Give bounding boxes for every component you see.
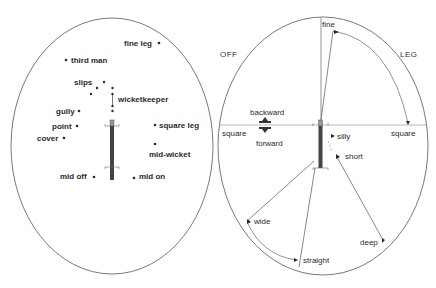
arrowhead — [382, 238, 385, 243]
fielder-gully: gully — [56, 107, 80, 116]
backward-arrow-icon — [262, 117, 268, 121]
term-short: short — [345, 152, 364, 161]
left-field: fine leg third man slips wicketkeeper gu… — [11, 18, 213, 274]
term-wide: wide — [253, 217, 271, 226]
forward-arrow-icon — [262, 129, 268, 133]
fielder-dot — [154, 143, 157, 146]
silly-short-dashed — [328, 141, 332, 152]
fielder-label: gully — [56, 107, 75, 116]
right-bat-stumps — [319, 120, 323, 126]
arrowhead — [294, 258, 298, 262]
term-straight: straight — [303, 256, 330, 265]
right-field: OFF LEG fine square square backward forw… — [218, 17, 428, 275]
left-bat-stumps — [110, 120, 114, 126]
up-down-arrow-body — [259, 127, 271, 129]
fielder-label: wicketkeeper — [117, 95, 168, 104]
fielder-label: mid-wicket — [149, 150, 191, 159]
fielder-fine-leg: fine leg — [124, 39, 160, 48]
fielder-dot — [65, 59, 68, 62]
fine-to-square-arrow — [321, 30, 410, 125]
left-pitch-strip — [110, 126, 114, 180]
fielder-third-man: third man — [65, 56, 108, 65]
fielder-label: square leg — [159, 121, 199, 130]
term-forward: forward — [256, 139, 283, 148]
fielder-square-leg: square leg — [154, 121, 199, 130]
fielder-label: mid off — [60, 172, 87, 181]
fielder-label: point — [52, 122, 72, 131]
fielder-dot — [154, 124, 157, 127]
right-pitch — [313, 120, 328, 170]
fielder-point: point — [52, 122, 78, 131]
term-square-leg: square — [391, 129, 416, 138]
fielder-label: cover — [37, 134, 58, 143]
cricket-field-diagram: fine leg third man slips wicketkeeper gu… — [0, 0, 436, 288]
left-pitch — [105, 120, 119, 180]
fielder-mid-wicket: mid-wicket — [149, 143, 191, 159]
off-side-label: OFF — [220, 50, 238, 59]
fielder-dot — [158, 42, 161, 45]
fielder-dot — [133, 177, 136, 180]
fielder-dot — [63, 137, 66, 140]
right-pitch-strip — [319, 126, 323, 168]
right-boundary — [218, 17, 428, 275]
fielder-wicketkeeper: wicketkeeper — [117, 95, 168, 104]
term-silly: silly — [337, 132, 350, 141]
wicketkeeper-marker — [111, 87, 113, 112]
fielder-mid-off: mid off — [60, 172, 95, 181]
fielder-dot — [93, 176, 96, 179]
fielder-dot — [78, 110, 81, 113]
deep-arrow — [336, 154, 385, 243]
up-down-arrow-body — [259, 121, 271, 123]
fielder-mid-on: mid on — [133, 172, 166, 181]
fielder-label: fine leg — [124, 39, 152, 48]
fielder-label: mid on — [139, 172, 165, 181]
silly-arrowhead — [331, 134, 335, 138]
fielder-cover: cover — [37, 134, 65, 143]
term-square-off: square — [222, 129, 247, 138]
fielder-label: third man — [71, 56, 108, 65]
fielder-label: slips — [74, 78, 93, 87]
fielder-dot — [76, 125, 79, 128]
term-fine: fine — [322, 20, 335, 29]
term-backward: backward — [250, 108, 284, 117]
arrowhead — [334, 30, 339, 34]
wide-straight-arrows — [247, 161, 315, 267]
leg-side-label: LEG — [400, 50, 418, 59]
term-deep: deep — [360, 238, 378, 247]
arrowhead — [247, 219, 251, 224]
fielder-slips: slips — [74, 78, 93, 87]
arrowhead — [406, 121, 410, 125]
